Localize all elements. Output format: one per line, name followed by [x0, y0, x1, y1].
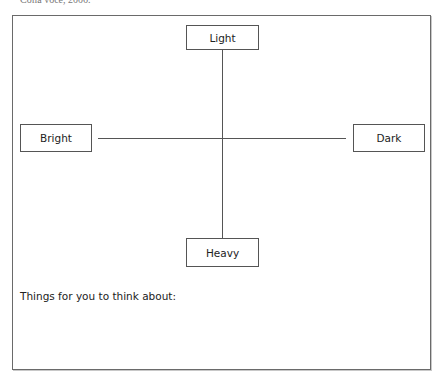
reflection-prompt: Things for you to think about: — [20, 290, 176, 302]
node-bright: Bright — [20, 124, 92, 152]
node-dark: Dark — [353, 124, 425, 152]
node-heavy: Heavy — [186, 238, 259, 267]
caption: Colla voce, 2006. — [20, 0, 91, 5]
node-light-label: Light — [209, 32, 235, 44]
node-light: Light — [186, 25, 259, 50]
node-heavy-label: Heavy — [206, 247, 239, 259]
node-dark-label: Dark — [377, 132, 402, 144]
node-bright-label: Bright — [40, 132, 72, 144]
vertical-axis-line — [222, 49, 223, 238]
horizontal-axis-line — [98, 138, 346, 139]
